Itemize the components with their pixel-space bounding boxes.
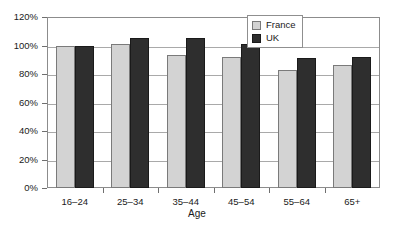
x-tick-label: 55–64 [269, 196, 325, 207]
legend-item-france: France [252, 19, 296, 31]
x-tick-label: 16–24 [47, 196, 103, 207]
legend-item-uk: UK [252, 32, 296, 44]
bar-uk-55–64 [297, 58, 316, 188]
bar-chart: 0%20%40%60%80%100%120% 16–2425–3435–4445… [0, 0, 394, 237]
x-tick-label: 65+ [325, 196, 381, 207]
bar-group [325, 17, 381, 188]
y-axis: 0%20%40%60%80%100%120% [0, 0, 47, 237]
bar-uk-65+ [352, 57, 371, 188]
y-tick-label: 60% [19, 98, 38, 108]
bar-uk-35–44 [186, 38, 205, 188]
x-tick-mark [158, 188, 159, 193]
bar-uk-45–54 [241, 44, 260, 188]
y-tick-label: 100% [14, 41, 38, 51]
bar-france-45–54 [222, 57, 241, 188]
y-tick-label: 40% [19, 126, 38, 136]
legend: France UK [247, 15, 303, 48]
y-tick-label: 120% [14, 12, 38, 22]
legend-label-france: France [266, 20, 296, 30]
bar-france-65+ [333, 65, 352, 188]
legend-swatch-france-icon [252, 21, 261, 30]
x-tick-mark [214, 188, 215, 193]
x-tick-label: 35–44 [158, 196, 214, 207]
y-tick-label: 80% [19, 69, 38, 79]
x-tick-mark [103, 188, 104, 193]
bar-group [47, 17, 103, 188]
bar-france-55–64 [278, 70, 297, 188]
legend-label-uk: UK [266, 33, 279, 43]
x-tick-label: 25–34 [103, 196, 159, 207]
legend-swatch-uk-icon [252, 34, 261, 43]
bar-france-25–34 [111, 44, 130, 188]
bar-france-16–24 [56, 46, 75, 189]
x-axis-title: Age [0, 208, 394, 219]
y-tick-label: 0% [24, 183, 38, 193]
x-tick-mark [269, 188, 270, 193]
bar-uk-25–34 [130, 38, 149, 188]
x-tick-mark [325, 188, 326, 193]
x-tick-label: 45–54 [214, 196, 270, 207]
bar-group [103, 17, 159, 188]
y-tick-label: 20% [19, 155, 38, 165]
bars-layer [47, 17, 380, 188]
bar-group [158, 17, 214, 188]
bar-uk-16–24 [75, 46, 94, 189]
bar-france-35–44 [167, 55, 186, 188]
